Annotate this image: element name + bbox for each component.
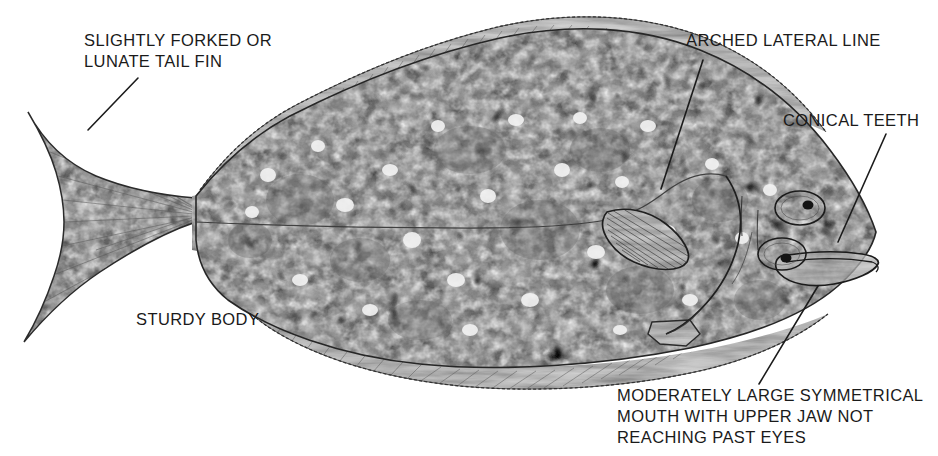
label-slightly-forked-lunate-tail-fin: SLIGHTLY FORKED OR LUNATE TAIL FIN (84, 30, 272, 72)
leader-tail-fin (88, 78, 138, 130)
label-conical-teeth: CONICAL TEETH (783, 110, 919, 131)
halibut-diagram: SLIGHTLY FORKED OR LUNATE TAIL FIN ARCHE… (0, 0, 938, 456)
label-sturdy-body: STURDY BODY (136, 309, 259, 330)
label-moderately-large-symmetrical-mouth: MODERATELY LARGE SYMMETRICAL MOUTH WITH … (617, 385, 923, 448)
label-arched-lateral-line: ARCHED LATERAL LINE (686, 30, 881, 51)
